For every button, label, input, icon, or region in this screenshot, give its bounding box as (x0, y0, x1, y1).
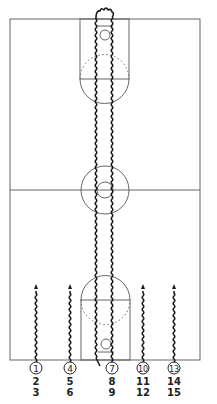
arrow-up-icon-0 (34, 284, 38, 289)
long-dribble-path-turn (96, 8, 113, 16)
queue-player-number: 15 (164, 387, 184, 398)
bottom-free-throw-arc (81, 276, 130, 301)
queue-player-number: 11 (133, 376, 153, 387)
queue-player-number: 14 (164, 376, 184, 387)
long-dribble-path-start (96, 358, 100, 366)
top-lane (80, 19, 129, 79)
queue-player-number: 6 (60, 387, 80, 398)
court-diagram: 1471013 (0, 0, 217, 404)
queue-player-number: 5 (60, 376, 80, 387)
player-number: 7 (109, 364, 115, 374)
top-basket (100, 30, 110, 40)
player-number: 4 (67, 364, 73, 374)
queue-player-number: 3 (26, 387, 46, 398)
player-number: 10 (138, 365, 148, 374)
player-number: 13 (169, 365, 179, 374)
bottom-lane (81, 300, 130, 360)
dribble-path-1 (69, 291, 71, 362)
top-free-throw-arc-dotted (80, 54, 129, 79)
queue-player-number: 8 (102, 376, 122, 387)
arrowheads (34, 284, 176, 289)
court-boundary (10, 19, 200, 360)
dribble-path-2 (142, 291, 144, 362)
dribble-paths (35, 8, 175, 366)
queue-player-number: 12 (133, 387, 153, 398)
dribble-path-3 (173, 291, 175, 362)
queue-player-number: 9 (102, 387, 122, 398)
basketball-court (10, 19, 200, 360)
dribble-path-0 (35, 291, 37, 362)
bottom-basket (101, 339, 111, 349)
top-free-throw-arc (80, 79, 129, 104)
queue-player-number: 2 (26, 376, 46, 387)
arrow-up-icon-1 (68, 284, 72, 289)
player-number: 1 (33, 364, 39, 374)
arrow-up-icon-3 (172, 284, 176, 289)
arrow-up-icon-2 (141, 284, 145, 289)
long-dribble-path-up (95, 16, 97, 358)
bottom-free-throw-arc-dotted (81, 300, 130, 325)
player-markers: 1471013 (30, 362, 180, 374)
